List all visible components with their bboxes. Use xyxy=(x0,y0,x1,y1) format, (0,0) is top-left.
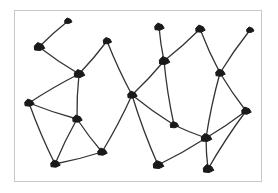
graph-node-g xyxy=(51,160,60,167)
graph-node-h xyxy=(98,148,107,155)
graph-node-a xyxy=(65,18,72,24)
graph-node-c xyxy=(103,38,111,44)
graph-edge xyxy=(200,29,220,73)
graph-edge xyxy=(39,47,79,74)
graph-edge xyxy=(55,152,102,164)
graph-node-o xyxy=(170,122,178,128)
graph-edge xyxy=(55,119,77,164)
graph-node-l xyxy=(196,25,205,32)
graph-edge xyxy=(39,21,68,47)
graph-edge xyxy=(208,111,246,169)
graph-edges xyxy=(29,21,250,169)
graph-edge xyxy=(132,61,164,95)
graph-edge xyxy=(159,27,164,61)
graph-edge xyxy=(77,74,79,119)
graph-edge xyxy=(102,95,132,152)
graph-edge xyxy=(77,119,102,152)
graph-edge xyxy=(206,73,220,138)
graph-node-d xyxy=(74,70,85,78)
graph-node-m xyxy=(216,69,225,76)
graph-edge xyxy=(132,95,174,125)
graph-node-r xyxy=(153,161,164,169)
network-graph xyxy=(0,0,278,193)
graph-edge xyxy=(29,74,79,103)
graph-edge xyxy=(107,41,132,95)
graph-edge xyxy=(174,125,206,138)
graph-node-q xyxy=(242,107,251,114)
graph-edge xyxy=(220,30,250,73)
graph-node-n xyxy=(247,27,254,33)
graph-node-j xyxy=(155,23,164,30)
graph-edge xyxy=(164,61,174,125)
graph-edge xyxy=(158,138,206,165)
graph-edge xyxy=(79,41,107,74)
graph-node-s xyxy=(203,165,214,173)
graph-edge xyxy=(29,103,55,164)
graph-node-f xyxy=(73,115,82,122)
graph-edge xyxy=(164,29,200,61)
graph-edge xyxy=(206,111,246,138)
graph-edge xyxy=(220,73,246,111)
graph-edge xyxy=(29,103,77,119)
graph-node-b xyxy=(34,43,45,51)
